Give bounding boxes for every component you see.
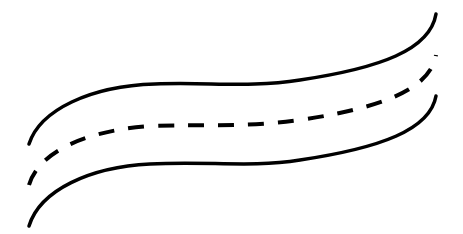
road-bottom-edge: [29, 96, 436, 226]
road-drawing-canvas: wavy road with dashed center line: [0, 0, 463, 234]
road-illustration: [0, 0, 463, 234]
